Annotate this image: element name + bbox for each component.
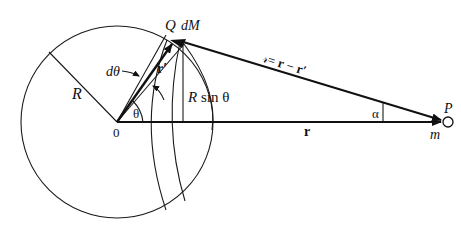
r-prime-vector xyxy=(117,44,172,122)
d-theta-edge-1 xyxy=(117,35,166,122)
label-alpha: α xyxy=(372,106,379,121)
label-P: P xyxy=(443,101,453,116)
label-r-prime: r′ xyxy=(157,61,167,76)
d-theta-lower-arrow xyxy=(153,86,164,100)
label-Q: Q xyxy=(165,17,176,33)
label-theta: θ xyxy=(133,106,139,121)
label-d-theta: dθ xyxy=(106,64,120,79)
label-R: R xyxy=(71,85,82,102)
shell-potential-diagram: Q dM R dθ r′ R sin θ θ 0 r 𝓇= r − r′ α P… xyxy=(0,0,461,229)
label-r: r xyxy=(304,124,310,139)
d-theta-pointer-arrow xyxy=(122,71,139,76)
label-origin: 0 xyxy=(113,125,120,140)
label-m: m xyxy=(430,127,440,142)
label-separation: 𝓇= r − r′ xyxy=(261,51,308,78)
label-dM: dM xyxy=(181,18,201,33)
point-P-marker xyxy=(443,117,453,127)
label-R-sin-theta: R sin θ xyxy=(187,89,229,105)
separation-vector xyxy=(180,41,441,120)
ring-arc-right xyxy=(184,44,213,130)
radius-line xyxy=(49,52,117,122)
